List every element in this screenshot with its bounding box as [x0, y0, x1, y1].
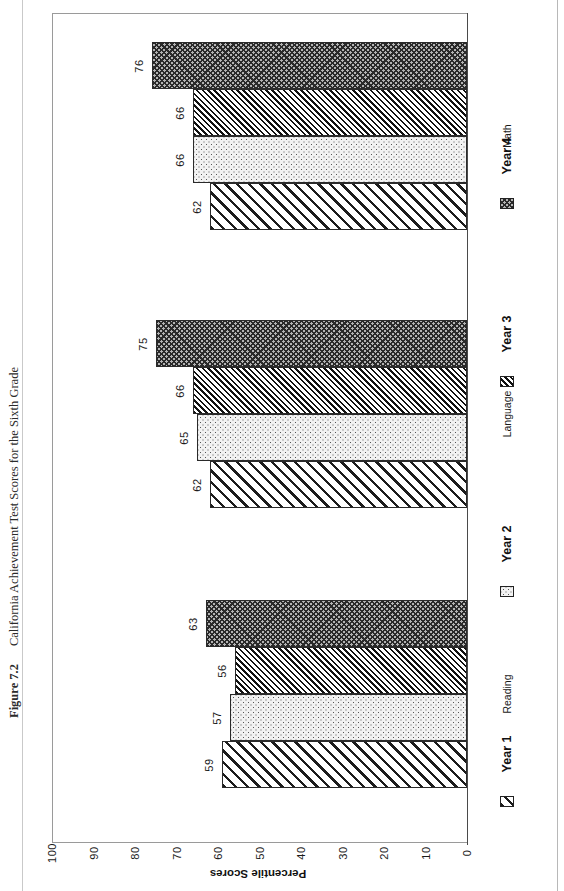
bar-reading-year-2: [230, 694, 467, 741]
tick-label-20: 20: [377, 838, 391, 868]
bar-pattern-dotted-stipple: [231, 695, 466, 740]
value-axis-title: Percentile Scores: [168, 866, 348, 882]
bar-value-label: 63: [186, 607, 200, 641]
bar-math-year-2: [193, 136, 467, 183]
bar-pattern-crosshatch-dark: [207, 601, 466, 646]
figure-title: California Achievement Test Scores for t…: [7, 367, 22, 646]
legend-label: Year 1: [499, 711, 515, 797]
legend-swatch-crosshatch-dark: [500, 198, 514, 209]
bar-value-label: 62: [190, 468, 204, 502]
bar-pattern-dotted-stipple: [198, 415, 466, 460]
bar-reading-year-3: [235, 647, 467, 694]
bar-value-label: 56: [215, 654, 229, 688]
bar-pattern-diagonal-hatch-dense: [194, 90, 466, 135]
bar-value-label: 76: [132, 49, 146, 83]
bar-math-year-3: [193, 89, 467, 136]
legend-label: Year 4: [499, 113, 515, 199]
bar-language-year-1: [210, 461, 467, 508]
legend-swatch-diagonal-hatch-wide: [500, 796, 514, 807]
legend-swatch-dotted-stipple: [500, 586, 514, 597]
tick-label-40: 40: [294, 838, 308, 868]
bar-math-year-1: [210, 183, 467, 230]
tick-label-50: 50: [253, 838, 267, 868]
bar-value-label: 65: [177, 421, 191, 455]
bar-reading-year-1: [222, 741, 467, 788]
tick-label-80: 80: [128, 838, 142, 868]
tick-label-10: 10: [419, 838, 433, 868]
bar-pattern-diagonal-hatch-wide: [223, 742, 466, 787]
bar-reading-year-4: [206, 600, 467, 647]
bar-language-year-4: [156, 320, 467, 367]
bar-value-label: 75: [136, 327, 150, 361]
tick-label-100: 100: [45, 838, 59, 868]
bar-pattern-diagonal-hatch-wide: [211, 184, 466, 229]
bar-pattern-crosshatch-dark: [157, 321, 466, 366]
tick-label-30: 30: [336, 838, 350, 868]
figure-page: Figure 7.2 California Achievement Test S…: [0, 0, 564, 891]
bar-value-label: 66: [173, 96, 187, 130]
tick-label-90: 90: [87, 838, 101, 868]
bar-pattern-diagonal-hatch-dense: [194, 368, 466, 413]
legend-label: Year 2: [499, 501, 515, 587]
legend-item-year-1[interactable]: Year 1: [478, 718, 564, 838]
legend-item-year-3[interactable]: Year 3: [478, 298, 564, 418]
legend-label: Year 3: [499, 291, 515, 377]
bar-pattern-dotted-stipple: [194, 137, 466, 182]
tick-label-60: 60: [211, 838, 225, 868]
legend-item-year-4[interactable]: Year 4: [478, 120, 564, 240]
bar-value-label: 62: [190, 190, 204, 224]
bar-value-label: 57: [210, 701, 224, 735]
figure-caption: Figure 7.2 California Achievement Test S…: [0, 118, 28, 718]
bar-pattern-crosshatch-dark: [153, 43, 466, 88]
legend-swatch-diagonal-hatch-dense: [500, 376, 514, 387]
chart-legend: Year 1Year 2Year 3Year 4: [470, 0, 564, 891]
value-axis-line: [467, 13, 468, 845]
tick-label-70: 70: [170, 838, 184, 868]
bar-value-label: 66: [173, 143, 187, 177]
bar-pattern-diagonal-hatch-wide: [211, 462, 466, 507]
bar-value-label: 59: [202, 748, 216, 782]
legend-item-year-2[interactable]: Year 2: [478, 508, 564, 628]
bar-language-year-2: [197, 414, 467, 461]
bar-pattern-diagonal-hatch-dense: [236, 648, 466, 693]
bar-language-year-3: [193, 367, 467, 414]
bar-value-label: 66: [173, 374, 187, 408]
figure-number: Figure 7.2: [7, 664, 22, 718]
bar-math-year-4: [152, 42, 467, 89]
